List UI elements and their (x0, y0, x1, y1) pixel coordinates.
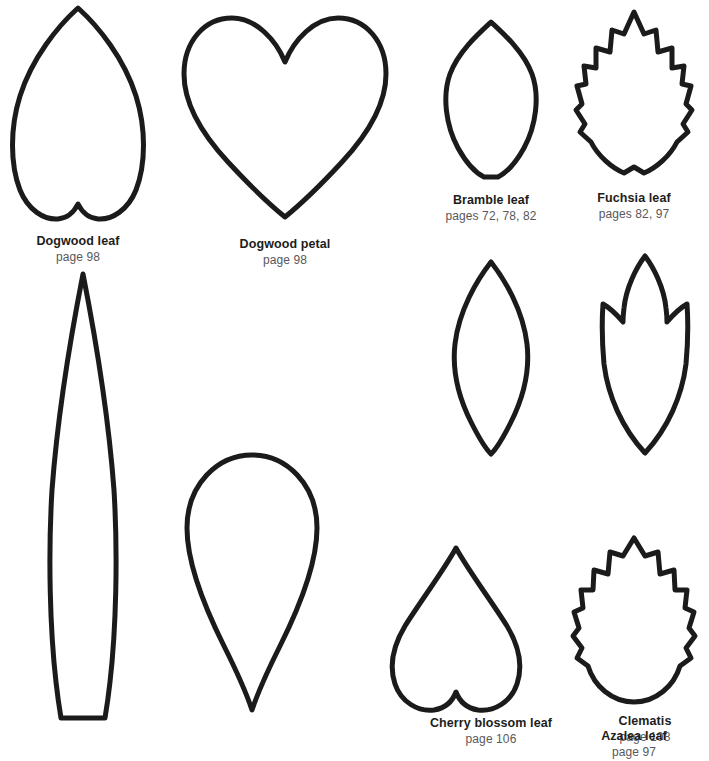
fuchsia-leaf-shape (572, 8, 696, 180)
hibiscus-petal-shape (182, 450, 322, 715)
hibiscus-leaf-shape (386, 544, 526, 716)
clematis-shape (592, 252, 698, 457)
template-hibiscus-petal: Hibiscus petal page 94 (182, 450, 322, 760)
dogwood-petal-shape (180, 12, 390, 220)
fuchsia-leaf-pages: pages 82, 97 (558, 207, 709, 221)
template-sheet: Dogwood leaf page 98 Dogwood petal page … (0, 0, 709, 761)
bramble-leaf-caption: Bramble leaf pages 72, 78, 82 (406, 193, 576, 223)
bramble-leaf-name: Bramble leaf (406, 193, 576, 208)
azalea-leaf-name: Azalea leaf (550, 729, 709, 744)
fuchsia-leaf-caption: Fuchsia leaf pages 82, 97 (558, 191, 709, 221)
azalea-leaf-shape (568, 534, 700, 716)
template-clematis: Clematis page 108 (592, 252, 698, 502)
dogwood-leaf-name: Dogwood leaf (2, 234, 154, 249)
template-bramble-leaf: Bramble leaf pages 72, 78, 82 (432, 18, 550, 233)
template-dogwood-leaf: Dogwood leaf page 98 (2, 4, 154, 266)
bramble-leaf-pages: pages 72, 78, 82 (406, 209, 576, 223)
dogwood-leaf-shape (2, 4, 154, 226)
template-fuchsia-leaf: Fuchsia leaf pages 82, 97 (572, 8, 696, 230)
fuchsia-leaf-name: Fuchsia leaf (558, 191, 709, 206)
snowdrop-leaf-shape (22, 270, 144, 722)
cherry-blossom-leaf-shape (443, 258, 539, 458)
dogwood-petal-caption: Dogwood petal page 98 (180, 237, 390, 267)
template-snowdrop-leaf: Snowdrop leaf page 86 (22, 270, 144, 760)
template-cherry-blossom-leaf: Cherry blossom leaf page 106 (443, 258, 539, 503)
azalea-leaf-caption: Azalea leaf page 97 (550, 729, 709, 759)
dogwood-leaf-caption: Dogwood leaf page 98 (2, 234, 154, 264)
dogwood-leaf-pages: page 98 (2, 250, 154, 264)
dogwood-petal-pages: page 98 (180, 253, 390, 267)
dogwood-petal-name: Dogwood petal (180, 237, 390, 252)
template-azalea-leaf: Azalea leaf page 97 (568, 534, 700, 759)
azalea-leaf-pages: page 97 (550, 745, 709, 759)
template-dogwood-petal: Dogwood petal page 98 (180, 12, 390, 267)
template-hibiscus-leaf: Hibiscus leaf page 94 (386, 544, 526, 759)
bramble-leaf-shape (432, 18, 550, 180)
